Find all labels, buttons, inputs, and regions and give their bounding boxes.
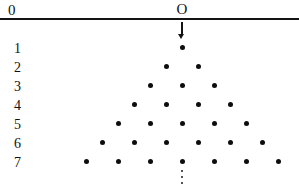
lattice-dot	[228, 140, 233, 145]
row-label-2: 2	[5, 61, 21, 75]
lattice-dot	[212, 83, 217, 88]
axis-left-label: 0	[8, 3, 16, 18]
lattice-dot	[196, 64, 201, 69]
lattice-dot	[148, 83, 153, 88]
lattice-dot	[116, 121, 121, 126]
lattice-dot	[228, 102, 233, 107]
ellipsis-dot	[181, 170, 183, 172]
lattice-dot	[196, 140, 201, 145]
lattice-dot	[244, 159, 249, 164]
row-label-4: 4	[5, 99, 21, 113]
downward-arrow-head	[178, 34, 184, 39]
lattice-figure: 0 O 1234567	[0, 0, 299, 192]
lattice-dot	[132, 140, 137, 145]
row-label-7: 7	[5, 156, 21, 170]
row-label-5: 5	[5, 118, 21, 132]
lattice-dot	[148, 121, 153, 126]
lattice-dot	[180, 83, 185, 88]
lattice-dot	[100, 140, 105, 145]
axis-line	[0, 18, 299, 20]
lattice-dot	[148, 159, 153, 164]
lattice-dot	[196, 102, 201, 107]
lattice-dot	[116, 159, 121, 164]
lattice-dot	[180, 121, 185, 126]
lattice-dot	[276, 159, 281, 164]
lattice-dot	[244, 121, 249, 126]
lattice-dot	[180, 159, 185, 164]
lattice-dot	[84, 159, 89, 164]
lattice-dot	[132, 102, 137, 107]
row-label-6: 6	[5, 137, 21, 151]
lattice-dot	[180, 45, 185, 50]
row-label-3: 3	[5, 80, 21, 94]
lattice-dot	[212, 159, 217, 164]
lattice-dot	[164, 64, 169, 69]
lattice-dot	[164, 140, 169, 145]
lattice-dot	[164, 102, 169, 107]
lattice-dot	[212, 121, 217, 126]
axis-origin-label: O	[177, 2, 188, 17]
ellipsis-dot	[181, 182, 183, 184]
ellipsis-dot	[181, 176, 183, 178]
row-label-1: 1	[5, 42, 21, 56]
lattice-dot	[260, 140, 265, 145]
